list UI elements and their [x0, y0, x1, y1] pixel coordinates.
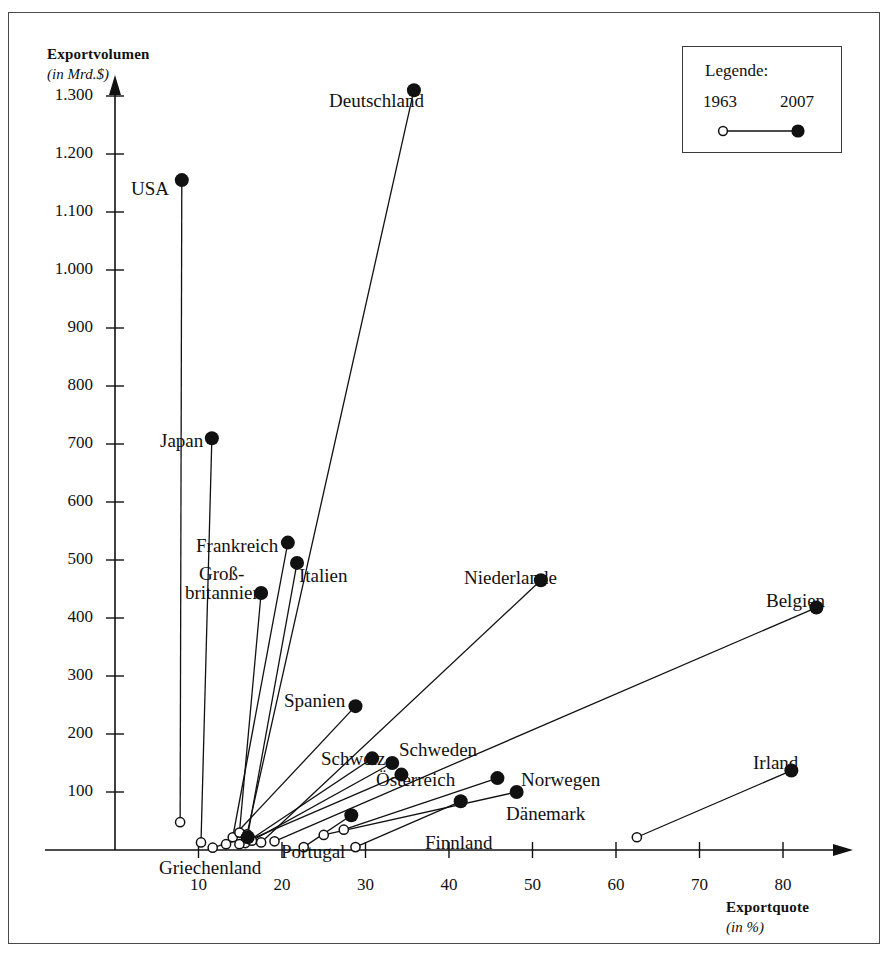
country-label: Schweiz — [321, 749, 385, 768]
connector-line — [245, 758, 372, 843]
connector-line — [180, 180, 182, 822]
y-tick-label: 600 — [23, 491, 93, 511]
country-label: Österreich — [376, 770, 455, 789]
filled-circle-icon[interactable] — [205, 431, 219, 445]
chart-frame: Exportvolumen (in Mrd.$) Exportquote (in… — [8, 12, 880, 944]
x-axis-title: Exportquote — [726, 899, 809, 916]
x-tick-label: 20 — [262, 875, 302, 895]
open-circle-icon[interactable] — [632, 833, 641, 842]
x-tick-label: 30 — [346, 875, 386, 895]
country-label: Norwegen — [521, 770, 600, 789]
y-axis-arrow — [109, 75, 121, 95]
open-circle-icon[interactable] — [221, 840, 230, 849]
country-label: Schweden — [399, 740, 477, 759]
connector-line — [261, 580, 541, 842]
filled-circle-icon[interactable] — [490, 771, 504, 785]
connector-line — [239, 593, 261, 833]
filled-circle-icon[interactable] — [175, 173, 189, 187]
open-circle-icon[interactable] — [208, 843, 217, 852]
x-axis-arrow — [833, 844, 853, 856]
y-tick-label: 900 — [23, 317, 93, 337]
country-label: Dänemark — [506, 804, 585, 823]
filled-circle-icon[interactable] — [241, 830, 255, 844]
x-tick-label: 10 — [179, 875, 219, 895]
x-tick-label: 50 — [513, 875, 553, 895]
country-label: Deutschland — [329, 91, 424, 110]
open-circle-icon[interactable] — [257, 838, 266, 847]
country-label: Groß- — [199, 564, 244, 583]
country-label: USA — [131, 179, 169, 198]
legend-box: Legende: 1963 2007 — [682, 46, 842, 153]
country-label: Finnland — [425, 833, 493, 852]
y-tick-label: 1.100 — [23, 201, 93, 221]
legend-symbol-swatch — [683, 47, 843, 154]
country-label: Niederlande — [464, 568, 557, 587]
filled-circle-icon[interactable] — [344, 808, 358, 822]
y-tick-label: 1.000 — [23, 259, 93, 279]
country-label: Irland — [753, 753, 798, 772]
open-circle-icon[interactable] — [339, 825, 348, 834]
y-tick-label: 200 — [23, 723, 93, 743]
data-point-markers — [175, 83, 824, 852]
filled-circle-icon[interactable] — [385, 756, 399, 770]
connector-line — [201, 438, 212, 842]
y-tick-label: 1.200 — [23, 143, 93, 163]
connector-line — [637, 771, 791, 838]
country-label: Griechenland — [159, 858, 261, 877]
x-tick-label: 70 — [680, 875, 720, 895]
y-tick-label: 500 — [23, 549, 93, 569]
y-tick-label: 800 — [23, 375, 93, 395]
open-circle-icon[interactable] — [319, 830, 328, 839]
country-label: Portugal — [281, 842, 345, 861]
y-axis-title: Exportvolumen — [47, 46, 150, 63]
connector-line — [252, 763, 392, 841]
open-circle-icon[interactable] — [196, 838, 205, 847]
country-label: Belgien — [766, 591, 825, 610]
country-label: britannien — [185, 583, 262, 602]
y-tick-label: 1.300 — [23, 85, 93, 105]
country-label: Japan — [160, 431, 203, 450]
y-axis-subtitle: (in Mrd.$) — [47, 66, 109, 83]
filled-circle-icon[interactable] — [348, 699, 362, 713]
legend-filled-circle-icon — [791, 124, 804, 137]
open-circle-icon[interactable] — [351, 843, 360, 852]
y-tick-label: 400 — [23, 607, 93, 627]
y-tick-label: 700 — [23, 433, 93, 453]
y-tick-label: 100 — [23, 781, 93, 801]
pair-connector-lines — [180, 90, 816, 847]
y-tick-label: 300 — [23, 665, 93, 685]
country-label: Italien — [299, 566, 348, 585]
filled-circle-icon[interactable] — [454, 794, 468, 808]
x-axis-subtitle: (in %) — [726, 919, 764, 936]
x-tick-label: 80 — [763, 875, 803, 895]
country-label: Frankreich — [196, 536, 278, 555]
filled-circle-icon[interactable] — [281, 536, 295, 550]
x-tick-label: 40 — [429, 875, 469, 895]
open-circle-icon[interactable] — [176, 818, 185, 827]
open-circle-icon[interactable] — [270, 837, 279, 846]
x-tick-label: 60 — [596, 875, 636, 895]
connector-line — [226, 706, 355, 844]
country-label: Spanien — [284, 691, 345, 710]
legend-open-circle-icon — [719, 127, 728, 136]
